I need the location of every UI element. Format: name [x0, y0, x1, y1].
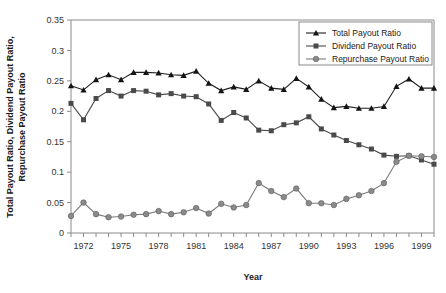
x-tick-label: 1981 — [186, 241, 206, 251]
data-point-marker — [219, 118, 224, 123]
data-point-marker — [193, 68, 199, 74]
x-tick-label: 1984 — [224, 241, 244, 251]
x-axis-title: Year — [243, 272, 263, 282]
data-point-marker — [206, 101, 211, 106]
series-square — [69, 88, 437, 167]
data-point-marker — [106, 88, 111, 93]
data-point-marker — [356, 142, 361, 147]
data-point-marker — [331, 133, 336, 138]
data-point-marker — [119, 94, 124, 99]
data-point-marker — [256, 128, 261, 133]
data-point-marker — [156, 92, 161, 97]
y-tick-label: 0.35 — [46, 15, 64, 25]
y-axis-title: Total Payout Ratio, Dividend Payout Rati… — [5, 36, 27, 217]
data-point-marker — [419, 154, 425, 160]
chart-legend: Total Payout RatioDividend Payout RatioR… — [299, 22, 432, 65]
data-point-marker — [381, 153, 386, 158]
data-point-marker — [243, 202, 249, 208]
data-point-marker — [432, 162, 437, 167]
data-point-marker — [293, 75, 299, 81]
x-tick-label: 1975 — [111, 241, 131, 251]
x-axis-ticks: 1972197519781981198419871990199319961999 — [71, 233, 434, 251]
data-point-marker — [431, 154, 437, 160]
data-point-marker — [381, 103, 387, 109]
legend-marker-circle-icon — [313, 56, 319, 62]
chart-container: 00.050.10.150.20.250.30.35 1972197519781… — [0, 0, 446, 293]
data-point-marker — [394, 159, 400, 165]
data-point-marker — [256, 180, 262, 186]
data-point-marker — [206, 211, 212, 217]
data-point-marker — [393, 83, 399, 89]
data-point-marker — [181, 210, 187, 216]
data-point-marker — [143, 211, 149, 217]
x-tick-label: 1993 — [336, 241, 356, 251]
series-triangle — [68, 68, 437, 111]
x-tick-label: 1972 — [74, 241, 94, 251]
data-point-marker — [156, 208, 162, 214]
y-tick-label: 0.1 — [51, 167, 64, 177]
x-tick-label: 1978 — [149, 241, 169, 251]
data-point-marker — [281, 194, 287, 200]
data-point-marker — [144, 89, 149, 94]
data-point-marker — [231, 110, 236, 115]
payout-ratio-line-chart: 00.050.10.150.20.250.30.35 1972197519781… — [0, 0, 446, 293]
data-point-marker — [281, 122, 286, 127]
data-point-marker — [269, 128, 274, 133]
data-point-marker — [306, 84, 312, 90]
data-point-marker — [69, 101, 74, 106]
y-axis-title-line1: Total Payout Ratio, Dividend Payout Rati… — [5, 36, 15, 217]
data-point-marker — [369, 147, 374, 152]
series-circle — [68, 153, 437, 220]
data-point-marker — [81, 200, 87, 206]
data-point-marker — [93, 211, 99, 217]
data-point-marker — [256, 78, 262, 84]
series-line — [71, 91, 434, 165]
data-point-marker — [331, 202, 337, 208]
data-point-marker — [68, 83, 74, 89]
series-line — [71, 156, 434, 217]
data-point-marker — [369, 188, 375, 194]
data-point-marker — [319, 126, 324, 131]
data-point-marker — [169, 91, 174, 96]
data-point-marker — [344, 196, 350, 202]
data-point-marker — [105, 72, 111, 78]
data-point-marker — [356, 192, 362, 198]
data-point-marker — [106, 214, 112, 220]
data-point-marker — [218, 201, 224, 207]
legend-label: Total Payout Ratio — [332, 28, 401, 38]
data-point-marker — [94, 96, 99, 101]
data-point-marker — [131, 88, 136, 93]
data-point-marker — [306, 200, 312, 206]
data-point-marker — [231, 205, 237, 211]
legend-marker-square-icon — [314, 44, 319, 49]
data-point-marker — [294, 186, 300, 192]
data-point-marker — [319, 200, 325, 206]
x-tick-label: 1996 — [374, 241, 394, 251]
x-tick-label: 1987 — [261, 241, 281, 251]
series-layer — [68, 68, 437, 220]
data-point-marker — [131, 212, 137, 218]
data-point-marker — [406, 153, 412, 159]
data-point-marker — [118, 214, 124, 220]
data-point-marker — [381, 180, 387, 186]
x-tick-label: 1990 — [299, 241, 319, 251]
y-tick-label: 0.05 — [46, 198, 64, 208]
y-axis-title-line2: Repurchase Payout Ratio — [17, 72, 27, 182]
y-tick-label: 0.3 — [51, 46, 64, 56]
data-point-marker — [244, 115, 249, 120]
data-point-marker — [268, 188, 274, 194]
legend-label: Repurchase Payout Ratio — [332, 54, 429, 64]
data-point-marker — [231, 84, 237, 90]
data-point-marker — [194, 94, 199, 99]
data-point-marker — [306, 114, 311, 119]
y-tick-label: 0.25 — [46, 76, 64, 86]
data-point-marker — [168, 211, 174, 217]
y-tick-label: 0.15 — [46, 137, 64, 147]
y-tick-label: 0 — [59, 228, 64, 238]
data-point-marker — [294, 120, 299, 125]
y-axis-ticks: 00.050.10.150.20.250.30.35 — [46, 15, 71, 238]
series-line — [71, 71, 434, 108]
data-point-marker — [193, 205, 199, 211]
data-point-marker — [68, 213, 74, 219]
x-tick-label: 1999 — [411, 241, 431, 251]
